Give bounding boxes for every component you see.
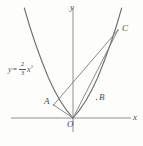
math-figure: y x O A B C y = 2 3 x 2	[0, 0, 143, 146]
segment-A-O	[54, 105, 74, 118]
equation-lead: y	[8, 65, 12, 74]
point-marker-B	[96, 99, 97, 100]
point-marker-A	[53, 104, 54, 105]
equation-numerator: 2	[21, 61, 25, 68]
equation-equals: =	[13, 65, 18, 74]
x-axis-label: x	[133, 113, 137, 122]
origin-label: O	[67, 120, 74, 129]
point-label-A: A	[44, 97, 50, 106]
point-marker-C	[117, 29, 118, 30]
curve-equation-label: y = 2 3 x 2	[8, 61, 33, 77]
equation-denominator: 3	[21, 70, 25, 77]
point-label-C: C	[122, 24, 128, 33]
point-label-B: B	[99, 93, 105, 102]
equation-fraction: 2 3	[19, 61, 26, 77]
equation-exponent: 2	[31, 64, 34, 69]
y-axis-label: y	[70, 3, 74, 12]
